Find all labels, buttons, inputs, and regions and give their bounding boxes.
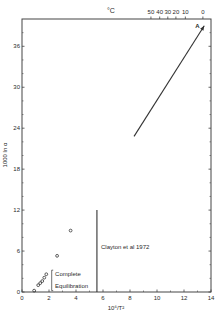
data-point [41,280,44,283]
y-tick-label: 30 [13,84,20,90]
x-axis-label: 10⁶/T² [108,305,124,311]
top-tick-label: 50 [148,9,155,15]
x-tick-label: 8 [128,295,132,301]
y-tick-label: 12 [13,207,20,213]
y-tick-label: 24 [13,125,20,131]
top-axis: 50403020100 [148,9,206,19]
top-axis-label: °C [107,7,115,14]
top-tick-label: 30 [164,9,171,15]
y-axis: 061218243036 [13,33,211,295]
x-tick-label: 2 [47,295,51,301]
annotation-text: Clayton et al 1972 [101,244,150,250]
x-axis: 02468101214 [20,290,215,302]
top-tick-label: 10 [182,9,189,15]
x-tick-label: 14 [208,295,215,301]
top-tick-label: 40 [156,9,163,15]
annotations: CompleteEquilibrationClayton et al 1972 [52,244,150,291]
y-tick-label: 18 [13,166,20,172]
x-tick-label: 10 [154,295,161,301]
data-point [69,229,72,232]
arrow-A [134,26,204,137]
y-tick-label: 6 [17,248,21,254]
annotation-text: Equilibration [55,283,88,289]
data-point [43,276,46,279]
top-tick-label: 20 [173,9,180,15]
top-tick-label: 0 [201,9,205,15]
x-tick-label: 6 [101,295,105,301]
y-axis-label: 1000 ln α [2,142,8,167]
lines: A [97,23,204,292]
y-tick-label: 36 [13,43,20,49]
x-tick-label: 12 [181,295,188,301]
chart: 02468101214 061218243036 50403020100 °C … [0,0,221,316]
data-point [56,254,59,257]
arrow-label: A [195,23,200,29]
x-tick-label: 0 [20,295,24,301]
data-point [45,273,48,276]
bracket [52,270,54,290]
x-tick-label: 4 [74,295,78,301]
annotation-text: Complete [55,271,81,277]
